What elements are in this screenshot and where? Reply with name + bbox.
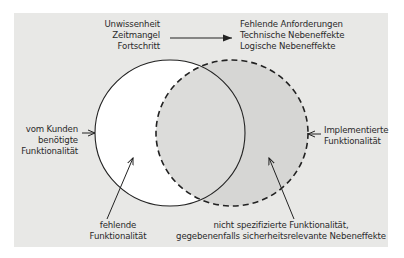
cause-item: Zeitmangel: [104, 30, 160, 41]
causes-label: Unwissenheit Zeitmangel Fortschritt: [104, 19, 160, 52]
missing-functionality-label: fehlende Funktionalität: [68, 220, 168, 242]
implemented-functionality-label: Implementierte Funktionalität: [324, 125, 388, 147]
required-functionality-label: vom Kunden benötigte Funktionalität: [21, 124, 78, 157]
effect-item: Fehlende Anforderungen: [240, 19, 344, 30]
cause-item: Unwissenheit: [104, 19, 160, 30]
effects-label: Fehlende Anforderungen Technische Nebene…: [240, 19, 344, 52]
cause-item: Fortschritt: [104, 41, 160, 52]
unspecified-functionality-label: nicht spezifizierte Funktionalität, gege…: [176, 220, 386, 242]
effect-item: Technische Nebeneffekte: [240, 30, 344, 41]
effect-item: Logische Nebeneffekte: [240, 41, 344, 52]
